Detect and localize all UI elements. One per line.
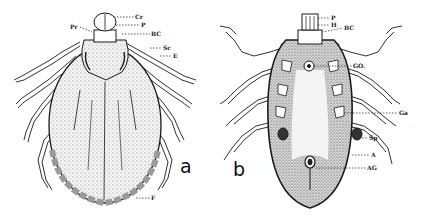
panel-a-basis-capituli <box>94 30 116 42</box>
panel-b-spiracle-right <box>352 128 362 140</box>
label-a-BC: BC <box>151 31 161 37</box>
label-b-H: H <box>331 22 337 28</box>
label-a-Cr: Cr <box>135 14 143 20</box>
label-a-Pr: Pr <box>70 24 78 30</box>
tick-illustrations <box>0 0 425 218</box>
panel-b-basis-capituli <box>298 30 322 44</box>
panel-a-dorsal-tick <box>14 13 196 203</box>
label-b-GO: GO. <box>353 63 365 69</box>
label-b-Ga: Ga <box>399 110 408 116</box>
panel-letter-a: a <box>180 157 192 176</box>
label-b-A: A <box>371 152 376 158</box>
label-a-E: E <box>173 53 178 59</box>
tick-anatomy-figure: Cr P Pr BC Sc E F a P H BC GO. Ga Sp A A… <box>0 0 425 218</box>
label-b-AG: AG <box>367 165 377 171</box>
label-a-P: P <box>141 22 146 28</box>
label-a-F: F <box>151 195 155 201</box>
panel-b-spiracle-left <box>278 128 288 140</box>
label-a-Sc: Sc <box>163 45 171 51</box>
panel-b-ventral-tick <box>220 14 402 208</box>
label-b-Sp: Sp <box>369 135 378 141</box>
panel-letter-b: b <box>233 160 245 179</box>
label-b-BC: BC <box>344 25 354 31</box>
